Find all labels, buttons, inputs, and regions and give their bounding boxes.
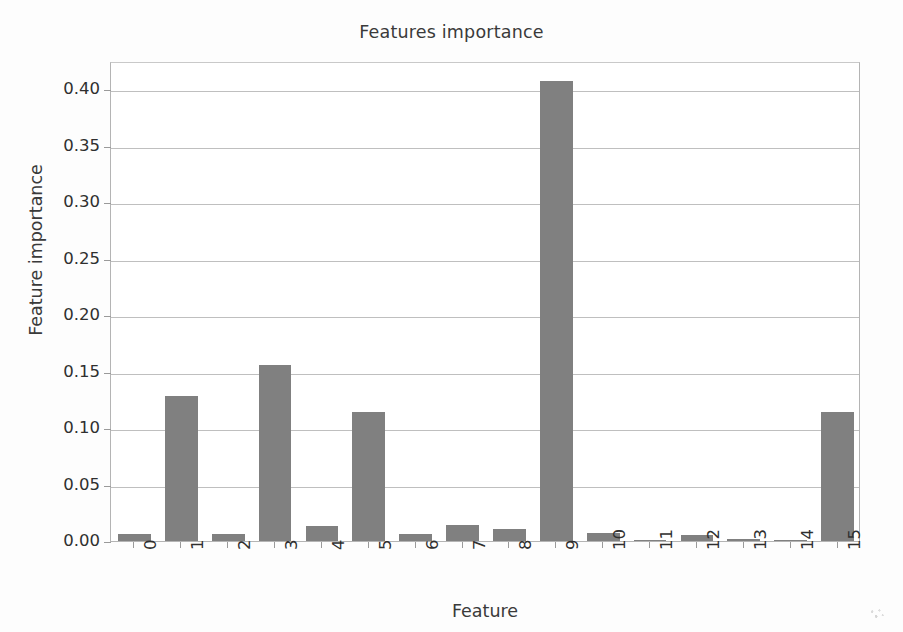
x-tick-mark	[415, 542, 416, 548]
chart-title: Features importance	[0, 22, 903, 42]
gridline	[111, 317, 859, 318]
bar	[493, 529, 526, 541]
x-tick-mark	[180, 542, 181, 548]
x-tick-mark	[837, 542, 838, 548]
bar	[587, 533, 620, 541]
bar	[540, 81, 573, 541]
bar	[446, 525, 479, 541]
x-tick-mark	[321, 542, 322, 548]
gridline	[111, 148, 859, 149]
bar	[774, 540, 807, 541]
x-tick-mark	[790, 542, 791, 548]
x-tick-mark	[462, 542, 463, 548]
x-tick-mark	[555, 542, 556, 548]
y-tick-label: 0.05	[30, 475, 100, 494]
bar	[259, 365, 292, 541]
bar	[212, 534, 245, 541]
bar	[727, 539, 760, 541]
bar	[118, 534, 151, 541]
gridline	[111, 430, 859, 431]
bar	[681, 535, 714, 541]
figure: Features importance Feature importance 0…	[0, 0, 903, 632]
x-tick-mark	[649, 542, 650, 548]
y-axis-title: Feature importance	[26, 70, 46, 430]
bar	[352, 412, 385, 541]
gridline	[111, 261, 859, 262]
x-tick-mark	[743, 542, 744, 548]
x-tick-mark	[696, 542, 697, 548]
plot-area	[110, 62, 860, 542]
x-tick-mark	[227, 542, 228, 548]
x-tick-mark	[602, 542, 603, 548]
y-tick-label: 0.00	[30, 531, 100, 550]
gridline	[111, 91, 859, 92]
bar	[634, 540, 667, 541]
bar	[306, 526, 339, 541]
scan-artifact-speck	[869, 608, 885, 620]
x-tick-mark	[274, 542, 275, 548]
bar	[165, 396, 198, 541]
x-tick-mark	[508, 542, 509, 548]
x-tick-mark	[133, 542, 134, 548]
bar	[821, 412, 854, 541]
x-axis-title: Feature	[110, 601, 860, 621]
gridline	[111, 204, 859, 205]
bar	[399, 534, 432, 541]
y-tick-mark	[104, 542, 111, 543]
x-tick-mark	[368, 542, 369, 548]
gridline	[111, 374, 859, 375]
gridline	[111, 487, 859, 488]
